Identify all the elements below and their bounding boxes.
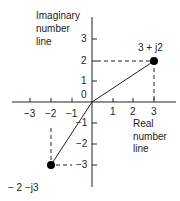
y-tick-label: 0 <box>81 89 87 100</box>
svg-text:Imaginary: Imaginary <box>36 10 80 21</box>
y-tick-label: 1 <box>81 75 87 86</box>
imaginary-axis-label: Imaginary number line <box>36 10 80 47</box>
svg-text:line: line <box>133 143 149 154</box>
point-label: − 2 −j3 <box>8 182 39 193</box>
complex-plane-diagram: −3 −2 −1 1 2 3 3 2 1 0 −1 −2 −3 Imaginar… <box>0 0 180 201</box>
point-marker <box>47 161 55 169</box>
y-tick-label: −1 <box>76 117 88 128</box>
svg-text:number: number <box>133 131 168 142</box>
svg-text:number: number <box>36 23 71 34</box>
y-tick-label: −2 <box>76 138 88 149</box>
phasor-line <box>92 61 154 102</box>
x-tick-label: −3 <box>24 108 36 119</box>
real-axis-label: Real number line <box>133 118 168 154</box>
diagram-canvas: −3 −2 −1 1 2 3 3 2 1 0 −1 −2 −3 Imaginar… <box>0 0 180 201</box>
y-tick-label: 2 <box>81 55 87 66</box>
x-tick-label: 1 <box>110 106 116 117</box>
svg-text:Real: Real <box>133 118 154 129</box>
point-label: 3 + j2 <box>138 42 163 53</box>
y-tick-label: −3 <box>76 159 88 170</box>
point-marker <box>150 57 158 65</box>
x-tick-label: 3 <box>151 106 157 117</box>
svg-text:line: line <box>36 36 52 47</box>
x-tick-label: −2 <box>45 108 57 119</box>
y-tick-label: 3 <box>81 33 87 44</box>
x-tick-label: 2 <box>130 106 136 117</box>
